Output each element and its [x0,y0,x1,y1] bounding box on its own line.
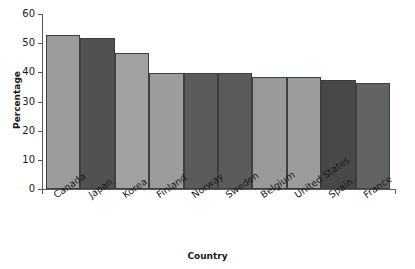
x-axis-title: Country [0,251,415,261]
bar-japan [80,38,114,189]
y-tick-label: 20 [22,125,35,136]
bar-belgium [252,77,286,189]
bar-norway [184,73,218,189]
y-tick-label: 60 [22,8,35,19]
x-axis-labels: CanadaJapanKoreaFinlandNorwaySwedenBelgi… [46,192,390,250]
bar-finland [149,73,183,189]
bar-sweden [218,73,252,189]
y-tick-mark [38,72,42,73]
bar-canada [46,35,80,189]
y-tick-label: 40 [22,66,35,77]
y-tick-mark [38,189,42,190]
y-tick-label: 50 [22,37,35,48]
y-tick-label: 0 [29,183,35,194]
y-tick-label: 10 [22,154,35,165]
y-tick-mark [38,102,42,103]
bar-france [356,83,390,189]
y-tick-label: 30 [22,96,35,107]
y-tick-mark [38,160,42,161]
y-tick-mark [38,43,42,44]
y-tick: 0 [42,189,46,190]
y-axis-title: Percentage [12,50,22,150]
bar-chart: Percentage 0102030405060 CanadaJapanKore… [0,0,415,269]
y-tick-mark [38,14,42,15]
y-tick-mark [38,131,42,132]
x-axis-right-cap [395,189,396,194]
bar-korea [115,53,149,190]
